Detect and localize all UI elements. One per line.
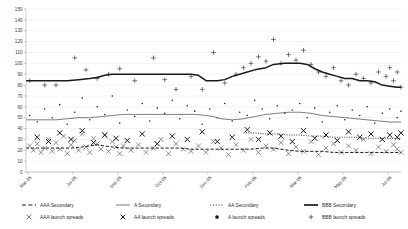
scatter-marker-plus [42,83,47,88]
legend-item[interactable]: AAA Secondary [22,203,74,208]
scatter-marker-plus [117,66,122,71]
scatter-marker-plus [174,87,179,92]
scatter-marker-plus [256,54,261,59]
scatter-marker-x [117,151,122,156]
chart-legend: AAA SecondaryA SecondaryAA SecondaryBBB … [22,203,366,220]
y-tick-label: 150 [15,7,23,12]
scatter-marker-dot [374,122,376,124]
scatter-marker-plus [222,80,227,85]
y-tick-label: 30 [17,137,23,142]
scatter-marker-x-bold [35,135,40,140]
line-series [26,145,401,153]
scatter-marker-x [219,146,224,151]
scatter-marker-x [27,215,32,220]
scatter-marker-plus [249,61,254,66]
scatter-marker-dot [164,113,166,115]
scatter-marker-x [50,149,55,154]
scatter-marker-plus [54,83,59,88]
y-tick-label: 80 [17,83,23,88]
scatter-marker-dot [329,111,331,113]
scatter-marker-plus [339,78,344,83]
y-tick-label: 60 [17,105,23,110]
scatter-marker-x-bold [170,134,175,139]
x-tick-label: Feb-06 [244,175,258,189]
scatter-marker-dot [156,107,158,109]
legend-item[interactable]: BBB launch spreads [309,215,366,220]
y-axis-labels: 0102030405060708090100110120130140150 [15,7,23,175]
scatter-marker-dot [194,110,196,112]
scatter-marker-dot [291,109,293,111]
scatter-marker-x [54,140,59,145]
scatter-marker-x [256,150,261,155]
scatter-marker-dot [209,108,211,110]
scatter-marker-x [234,142,239,147]
scatter-marker-dot [389,108,391,110]
scatter-marker-dot [321,121,323,123]
scatter-marker-x [384,149,389,154]
legend-item[interactable]: AA Secondary [210,203,259,208]
scatter-marker-plus [271,37,276,42]
scatter-marker-x-bold [387,132,392,137]
scatter-marker-x-bold [140,131,145,136]
scatter-marker-x [181,147,186,152]
scatter-marker-dot [179,118,181,120]
scatter-marker-plus [387,65,392,70]
scatter-marker-plus [84,67,89,72]
y-tick-label: 120 [15,39,23,44]
scatter-marker-x [346,144,351,149]
scatter-marker-dot [276,105,278,107]
y-axis-ticks [24,9,26,172]
scatter-marker-dot [239,111,241,113]
scatter-marker-dot [119,122,121,124]
line-series [26,63,401,87]
scatter-marker-x-bold [102,132,107,137]
x-tick-label: Oct-05 [154,175,168,189]
scatter-marker-dot [171,100,173,102]
scatter-marker-plus [264,59,269,64]
scatter-marker-dot [59,104,61,106]
scatter-marker-dot [400,110,402,112]
scatter-marker-plus [376,70,381,75]
scatter-marker-x [99,147,104,152]
scatter-marker-plus [331,65,336,70]
scatter-series [29,95,402,125]
scatter-marker-plus [132,78,137,83]
scatter-marker-x-bold [346,129,351,134]
scatter-marker-x [204,150,209,155]
scatter-marker-plus [354,72,359,77]
y-tick-label: 100 [15,61,23,66]
scatter-marker-x-bold [230,135,235,140]
scatter-marker-x [39,150,44,155]
legend-item[interactable]: BBB Secondary [304,203,356,208]
legend-item[interactable]: AA launch spreads [121,215,175,220]
scatter-marker-plus [324,74,329,79]
scatter-marker-plus [395,70,400,75]
scatter-marker-x [91,136,96,141]
chart-canvas: 0102030405060708090100110120130140150 Ma… [0,0,408,229]
scatter-marker-dot [366,106,368,108]
scatter-marker-dot [111,95,113,97]
scatter-marker-dot [96,106,98,108]
legend-item[interactable]: A launch spreads [215,215,265,220]
scatter-marker-x-bold [368,131,373,136]
legend-label: A launch spreads [228,215,265,220]
legend-label: AAA Secondary [40,203,74,208]
scatter-marker-plus [211,50,216,55]
scatter-marker-plus [294,58,299,63]
scatter-marker-x-bold [57,130,62,135]
legend-item[interactable]: A Secondary [116,203,162,208]
scatter-marker-dot [186,105,188,107]
y-tick-label: 50 [17,115,23,120]
scatter-marker-dot [201,123,203,125]
scatter-marker-x [174,141,179,146]
scatter-marker-x-bold [290,139,295,144]
scatter-marker-dot [231,120,233,122]
y-tick-label: 130 [15,28,23,33]
legend-item[interactable]: AAA launch spreads [27,215,84,220]
scatter-marker-plus [200,87,205,92]
scatter-marker-dot [351,109,353,111]
x-tick-label: Mar-06 [289,175,303,189]
scatter-marker-x-bold [113,136,118,141]
scatter-marker-x [286,151,291,156]
scatter-marker-dot [29,115,31,117]
